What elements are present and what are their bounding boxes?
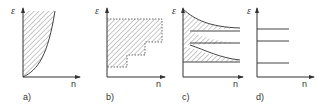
- x-axis-label: n: [71, 79, 76, 89]
- band-3: [183, 46, 240, 62]
- y-axis-label: ε: [172, 5, 176, 16]
- panel-label: c): [182, 92, 190, 102]
- panel-label: a): [23, 92, 31, 102]
- panel-label: b): [106, 92, 114, 102]
- x-axis-label: n: [302, 79, 307, 89]
- band-1: [183, 9, 240, 32]
- y-axis-label: ε: [11, 5, 15, 16]
- panel-d: ε n d): [247, 5, 314, 102]
- panel-b: ε n b): [95, 5, 165, 102]
- y-axis-label: ε: [95, 5, 99, 16]
- panel-c: ε n c): [172, 5, 243, 102]
- hatched-region: [23, 11, 55, 77]
- panel-label: d): [256, 92, 264, 102]
- x-axis-label: n: [156, 79, 161, 89]
- figure: ε n a) ε n b) ε n c) ε n d): [0, 0, 323, 109]
- hatched-region: [107, 19, 162, 67]
- panel-a: ε n a): [11, 5, 80, 102]
- x-axis-label: n: [233, 79, 238, 89]
- band-2: [183, 31, 240, 46]
- y-axis-label: ε: [247, 5, 251, 16]
